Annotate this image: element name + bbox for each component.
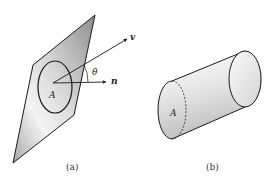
caption-a: (a) (66, 162, 78, 172)
inclined-plane (13, 15, 95, 163)
cross-section-a-label: A (169, 108, 177, 118)
cylinder-right-cap (229, 51, 261, 107)
diagram-canvas: θ n v A (a) A (b) (0, 0, 272, 187)
angle-theta-label: θ (92, 67, 98, 77)
caption-b: (b) (206, 162, 219, 172)
figure-b: A (b) (158, 51, 262, 172)
angle-arc (84, 65, 88, 82)
velocity-v-label: v (130, 32, 136, 42)
figure-a: θ n v A (a) (13, 15, 136, 172)
area-a-label: A (48, 90, 56, 100)
normal-n-label: n (111, 76, 118, 86)
